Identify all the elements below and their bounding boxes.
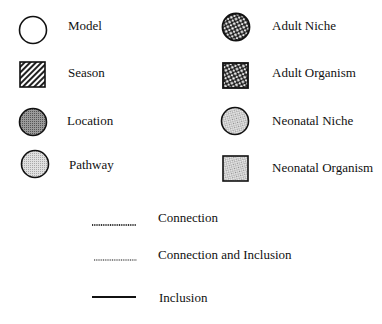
legend-label-adult-niche: Adult Niche xyxy=(272,18,336,33)
legend-label-connection-and-inclusion: Connection and Inclusion xyxy=(158,247,292,262)
dark-gray-circle-icon xyxy=(18,107,48,137)
hatched-square-icon xyxy=(19,61,47,89)
legend-label-season: Season xyxy=(68,65,105,80)
legend-label-pathway: Pathway xyxy=(69,157,114,172)
light-dotted-line-icon xyxy=(94,258,140,262)
fine-dotted-circle-icon xyxy=(220,106,250,136)
legend-label-inclusion: Inclusion xyxy=(159,290,207,305)
light-gray-circle-icon xyxy=(20,149,50,179)
fine-dotted-square-icon xyxy=(222,155,250,183)
legend-label-adult-organism: Adult Organism xyxy=(272,65,356,80)
open-circle-icon xyxy=(18,15,48,45)
coarse-dotted-circle-icon xyxy=(221,12,251,42)
coarse-dotted-square-icon xyxy=(222,62,250,90)
legend-label-connection: Connection xyxy=(158,210,218,225)
dark-dotted-line-icon xyxy=(92,223,138,227)
legend-label-model: Model xyxy=(68,18,102,33)
legend-label-location: Location xyxy=(67,113,113,128)
legend-label-neonatal-niche: Neonatal Niche xyxy=(272,113,353,128)
solid-line-icon xyxy=(92,295,138,299)
legend-label-neonatal-organism: Neonatal Organism xyxy=(272,160,373,175)
